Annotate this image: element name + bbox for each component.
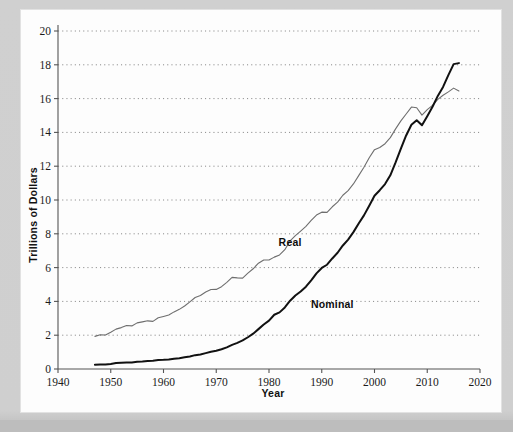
y-axis-title: Trillions of Dollars xyxy=(27,167,39,263)
x-tick-label-2010: 2010 xyxy=(416,376,439,388)
axis-lines-group xyxy=(58,25,480,369)
y-tick-label-0: 0 xyxy=(45,363,51,375)
y-tick-label-14: 14 xyxy=(40,126,52,138)
x-axis-title: Year xyxy=(262,387,285,399)
series-line-nominal xyxy=(95,63,459,365)
series-line-real xyxy=(95,88,459,336)
x-tick-label-2020: 2020 xyxy=(469,376,492,388)
y-tick-label-8: 8 xyxy=(45,228,51,240)
x-tick-label-2000: 2000 xyxy=(363,376,386,388)
x-tick-label-1960: 1960 xyxy=(152,376,175,388)
y-tick-label-20: 20 xyxy=(40,25,52,37)
y-tick-label-6: 6 xyxy=(45,262,51,274)
y-tick-label-4: 4 xyxy=(45,295,51,307)
y-tick-label-16: 16 xyxy=(40,93,52,105)
gridlines-group xyxy=(58,31,480,335)
y-tick-group: 02468101214161820 xyxy=(40,25,59,375)
x-tick-group: 194019501960197019801990200020102020 xyxy=(47,369,492,388)
screenshot-root: 02468101214161820 1940195019601970198019… xyxy=(0,0,513,432)
y-tick-label-12: 12 xyxy=(40,160,52,172)
series-annotation-real: Real xyxy=(279,236,302,248)
series-annotation-nominal: Nominal xyxy=(311,298,354,310)
gdp-line-chart: 02468101214161820 1940195019601970198019… xyxy=(21,10,501,412)
series-lines-group xyxy=(95,63,459,365)
y-tick-label-18: 18 xyxy=(40,59,52,71)
x-tick-label-1950: 1950 xyxy=(99,376,122,388)
y-tick-label-10: 10 xyxy=(40,194,52,206)
x-tick-label-1970: 1970 xyxy=(205,376,228,388)
y-tick-label-2: 2 xyxy=(45,329,51,341)
x-tick-label-1990: 1990 xyxy=(310,376,333,388)
x-tick-label-1940: 1940 xyxy=(47,376,70,388)
bottom-gray-bar xyxy=(0,420,513,432)
